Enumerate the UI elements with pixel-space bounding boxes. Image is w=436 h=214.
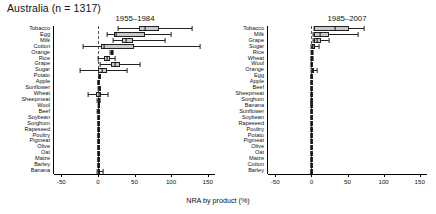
whisker-line [113,40,166,41]
panel-header: 1985–2007 [267,14,427,23]
whisker-line [100,64,140,65]
panel-1985-2007: 1985–2007 TobaccoMilkGrapeSugarRiceWheat… [221,14,429,174]
category-axis-labels: TobaccoEggMilkCottonOrangeRiceGrapeSugar… [7,26,53,174]
figure-root: Australia (n = 1317) 1955–1984 TobaccoEg… [0,0,436,214]
category-axis-labels: TobaccoMilkGrapeSugarRiceWheatWoolOrange… [221,26,267,174]
median-line [311,169,312,174]
median-line [98,169,99,174]
x-axis-title: NRA by product (%) [0,196,436,205]
x-tick-label: 50 [344,178,351,185]
x-tick-label: 150 [415,178,425,185]
plot-wrapper: TobaccoMilkGrapeSugarRiceWheatWoolOrange… [221,26,427,174]
boxplot-row [54,168,215,175]
x-tick-label: 0 [96,178,99,185]
figure-title: Australia (n = 1317) [7,2,101,14]
plot-wrapper: TobaccoEggMilkCottonOrangeRiceGrapeSugar… [7,26,215,174]
panel-header: 1955–1984 [55,14,215,23]
panel-1955-1984: 1955–1984 TobaccoEggMilkCottonOrangeRice… [7,14,217,174]
x-tick-label: 100 [378,178,388,185]
x-tick-label: -50 [271,178,280,185]
plot-area: -50050100150 [53,26,215,174]
boxplot-row [268,168,427,175]
x-tick-label: -50 [57,178,66,185]
category-label: Banana [31,168,50,174]
x-tick-label: 50 [131,178,138,185]
x-tick-label: 100 [166,178,176,185]
plot-area: -50050100150 [267,26,427,174]
x-tick-label: 150 [203,178,213,185]
category-label: Barley [248,168,264,174]
whisker-cap-high [103,169,104,174]
x-tick-label: 0 [310,178,313,185]
